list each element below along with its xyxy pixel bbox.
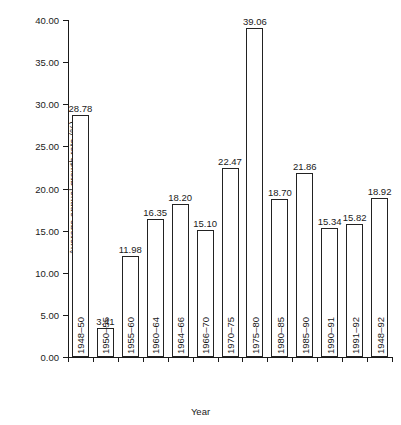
bar-value-label: 15.10 [193,218,217,229]
x-tick [267,357,268,362]
x-category-label-text: 1948–50 [76,317,86,365]
bar-value-label: 22.47 [218,156,242,167]
bar-chart: Average annual growth rate (%) 0.005.001… [0,0,401,425]
bar-value-label: 28.78 [69,103,93,114]
y-tick: 30.00 [63,104,68,105]
x-tick [193,357,194,362]
y-tick: 35.00 [63,62,68,63]
x-tick [242,357,243,362]
y-tick: 15.00 [63,231,68,232]
y-tick: 10.00 [63,273,68,274]
x-category-label-text: 1991–92 [351,317,361,365]
bar-value-label: 11.98 [119,244,142,255]
x-tick [168,357,169,362]
x-category-label-text: 1960–64 [151,317,161,365]
x-category-label-text: 1964–66 [176,317,186,365]
y-tick-label: 40.00 [35,14,59,27]
plot-area: 0.005.0010.0015.0020.0025.0030.0035.0040… [68,20,392,357]
y-tick-label: 15.00 [35,225,59,238]
x-tick [218,357,219,362]
x-tick [68,357,69,362]
bar-value-label: 39.06 [243,16,267,27]
y-tick: 25.00 [63,146,68,147]
y-tick: 20.00 [63,189,68,190]
bar-value-label: 21.86 [293,161,317,172]
y-tick-label: 5.00 [41,309,60,322]
x-category-label-text: 1955–60 [126,317,136,365]
x-tick [367,357,368,362]
bar[interactable]: 39.06 [246,28,263,357]
bar-value-label: 15.34 [318,216,342,227]
x-category-label-text: 1950–55 [101,317,111,365]
x-axis-title: Year [0,406,401,417]
bar-value-label: 18.92 [368,186,392,197]
x-tick [342,357,343,362]
x-category-label-text: 1985–90 [301,317,311,365]
y-tick: 5.00 [63,315,68,316]
x-category-label-text: 1970–75 [226,317,236,365]
bar-value-label: 16.35 [143,207,167,218]
x-tick [118,357,119,362]
x-tick [292,357,293,362]
x-category-label-text: 1990–91 [326,317,336,365]
y-tick-label: 35.00 [35,56,59,69]
x-tick [392,357,393,362]
y-tick-label: 20.00 [35,183,59,196]
x-tick [93,357,94,362]
chart-title-clipped [0,0,401,3]
bar-value-label: 15.82 [343,212,367,223]
y-tick: 40.00 [63,20,68,21]
x-tick [143,357,144,362]
x-category-label-text: 1980–85 [276,317,286,365]
y-tick-label: 30.00 [35,98,59,111]
y-axis-line [68,20,69,357]
x-category-label-text: 1948–92 [376,317,386,365]
y-tick-label: 0.00 [41,351,60,364]
x-tick [317,357,318,362]
x-category-label-text: 1975–80 [251,317,261,365]
y-tick-label: 25.00 [35,140,59,153]
bar-value-label: 18.70 [268,187,292,198]
bar-value-label: 18.20 [168,192,192,203]
x-category-label-text: 1966–70 [201,317,211,365]
y-tick-label: 10.00 [35,267,59,280]
